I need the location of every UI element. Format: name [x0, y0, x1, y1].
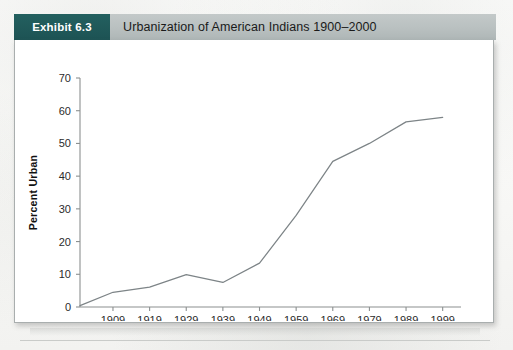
exhibit-badge: Exhibit 6.3 — [14, 14, 110, 40]
x-tick-label: 1979 — [357, 314, 381, 321]
chart-container: 010203040506070 190919191929193919491959… — [14, 40, 494, 323]
exhibit-card: Exhibit 6.3 Urbanization of American Ind… — [14, 14, 496, 325]
y-tick-label: 60 — [59, 105, 71, 117]
y-tick-label: 0 — [65, 301, 71, 313]
y-tick-label: 50 — [59, 137, 71, 149]
x-tick-label: 1989 — [394, 314, 418, 321]
y-axis: 010203040506070 — [59, 72, 80, 313]
page-rule — [20, 340, 490, 341]
y-tick-label: 40 — [59, 170, 71, 182]
x-tick-label: 1909 — [101, 314, 125, 321]
x-tick-label: 1969 — [321, 314, 345, 321]
x-tick-label: 1929 — [174, 314, 198, 321]
x-tick-label: 1949 — [247, 314, 271, 321]
line-chart: 010203040506070 190919191929193919491959… — [15, 40, 493, 321]
exhibit-header: Exhibit 6.3 Urbanization of American Ind… — [14, 14, 496, 40]
x-tick-label: 1939 — [211, 314, 235, 321]
x-tick-label: 1999 — [430, 314, 454, 321]
exhibit-title: Urbanization of American Indians 1900–20… — [110, 14, 496, 40]
data-series-percent-urban — [80, 117, 443, 305]
x-tick-label: 1919 — [137, 314, 161, 321]
page-smudge — [30, 328, 480, 336]
x-tick-label: 1959 — [284, 314, 308, 321]
y-tick-label: 20 — [59, 236, 71, 248]
y-axis-title: Percent Urban — [27, 155, 39, 231]
series-line-percent-urban — [80, 117, 443, 305]
y-tick-label: 30 — [59, 203, 71, 215]
x-axis: 1909191919291939194919591969197919891999 — [80, 307, 461, 321]
y-tick-label: 10 — [59, 268, 71, 280]
y-tick-label: 70 — [59, 72, 71, 84]
